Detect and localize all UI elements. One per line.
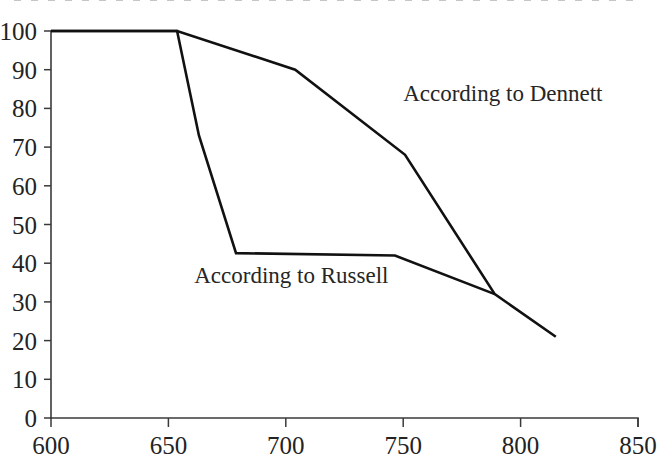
y-tick-label-50: 50 <box>12 212 37 239</box>
y-tick-label-90: 90 <box>12 57 37 84</box>
y-tick-label-60: 60 <box>12 173 37 200</box>
x-axis-tick-labels: 600650700750800850 <box>32 432 657 459</box>
x-tick-label-850: 850 <box>619 432 657 459</box>
series-line-russell <box>51 31 495 294</box>
y-tick-label-80: 80 <box>12 95 37 122</box>
series-label-russell: According to Russell <box>194 263 388 288</box>
x-tick-label-600: 600 <box>32 432 70 459</box>
x-tick-label-650: 650 <box>150 432 188 459</box>
y-tick-label-40: 40 <box>12 250 37 277</box>
x-tick-label-700: 700 <box>267 432 305 459</box>
chart-figure: According to DennettAccording to Russell… <box>0 0 664 470</box>
line-chart-canvas: According to DennettAccording to Russell… <box>0 0 664 470</box>
y-tick-label-100: 100 <box>0 18 37 45</box>
y-tick-label-70: 70 <box>12 134 37 161</box>
y-tick-label-20: 20 <box>12 328 37 355</box>
y-tick-label-30: 30 <box>12 289 37 316</box>
x-tick-label-800: 800 <box>502 432 540 459</box>
y-tick-label-0: 0 <box>25 405 38 432</box>
series-label-dennett: According to Dennett <box>403 81 603 106</box>
series-group <box>51 31 556 337</box>
y-tick-label-10: 10 <box>12 366 37 393</box>
x-axis-ticks <box>51 418 638 427</box>
x-tick-label-750: 750 <box>384 432 422 459</box>
y-axis-tick-labels: 0102030405060708090100 <box>0 18 37 432</box>
series-line-dennett <box>51 31 556 337</box>
y-axis-ticks <box>44 31 51 418</box>
